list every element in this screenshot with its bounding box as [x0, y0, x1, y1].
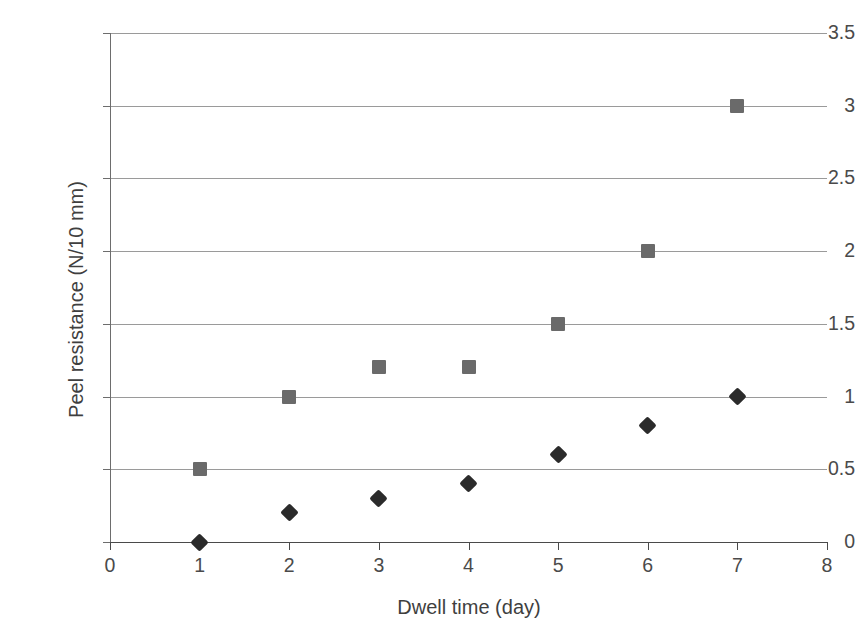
y-axis-title: Peel resistance (N/10 mm)	[65, 90, 88, 510]
gridline	[110, 251, 827, 252]
x-tick-mark	[289, 543, 290, 550]
x-tick-label: 5	[538, 556, 578, 576]
y-tick-label: 3	[759, 96, 855, 116]
x-tick-mark	[110, 543, 111, 550]
data-point-square	[282, 390, 296, 404]
y-tick-label: 1.5	[759, 314, 855, 334]
gridline	[110, 469, 827, 470]
x-tick-mark	[379, 543, 380, 550]
y-axis-line	[110, 33, 111, 543]
y-tick-mark	[103, 469, 110, 470]
x-axis-title: Dwell time (day)	[110, 596, 828, 619]
scatter-chart: 00.511.522.533.5 012345678 Peel resistan…	[0, 0, 855, 640]
x-tick-label: 0	[90, 556, 130, 576]
y-tick-label: 2	[759, 241, 855, 261]
plot-area	[110, 33, 827, 542]
y-tick-mark	[103, 33, 110, 34]
x-tick-label: 8	[807, 556, 847, 576]
data-point-square	[193, 462, 207, 476]
y-tick-label: 0.5	[759, 459, 855, 479]
y-tick-label: 3.5	[759, 23, 855, 43]
data-point-square	[462, 360, 476, 374]
gridline	[110, 106, 827, 107]
data-point-square	[641, 244, 655, 258]
y-tick-mark	[103, 324, 110, 325]
y-tick-mark	[103, 542, 110, 543]
y-tick-mark	[103, 251, 110, 252]
x-tick-label: 2	[269, 556, 309, 576]
y-tick-mark	[103, 178, 110, 179]
gridline	[110, 33, 827, 34]
x-tick-mark	[827, 543, 828, 550]
x-tick-mark	[558, 543, 559, 550]
x-tick-label: 1	[180, 556, 220, 576]
x-tick-label: 6	[628, 556, 668, 576]
y-tick-mark	[103, 397, 110, 398]
data-point-square	[730, 99, 744, 113]
gridline	[110, 397, 827, 398]
gridline	[110, 178, 827, 179]
y-tick-label: 2.5	[759, 168, 855, 188]
gridline	[110, 324, 827, 325]
x-tick-mark	[737, 543, 738, 550]
x-tick-mark	[648, 543, 649, 550]
x-tick-label: 7	[717, 556, 757, 576]
data-point-square	[372, 360, 386, 374]
data-point-square	[551, 317, 565, 331]
x-tick-label: 4	[449, 556, 489, 576]
y-tick-label: 1	[759, 387, 855, 407]
x-tick-mark	[469, 543, 470, 550]
y-tick-mark	[103, 106, 110, 107]
x-tick-label: 3	[359, 556, 399, 576]
